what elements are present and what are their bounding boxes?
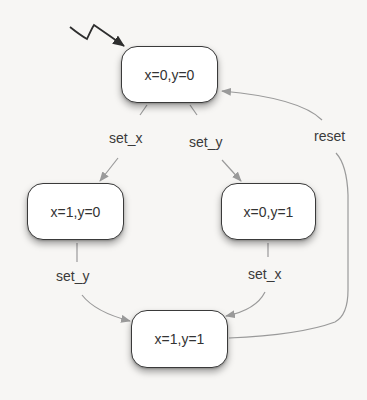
initial-state-arrow xyxy=(70,25,124,46)
edge-set-y-lower-bottom xyxy=(82,295,130,321)
state-label: x=1,y=0 xyxy=(51,204,101,220)
state-x1-y1: x=1,y=1 xyxy=(131,310,228,368)
edge-set-y-top xyxy=(190,105,197,115)
edge-label-reset: reset xyxy=(314,128,345,144)
state-label: x=0,y=0 xyxy=(145,67,195,83)
state-label: x=0,y=1 xyxy=(244,204,294,220)
edge-reset-lower xyxy=(229,153,348,338)
state-x1-y0: x=1,y=0 xyxy=(27,183,124,240)
edge-label-set-x-lower: set_x xyxy=(248,266,281,282)
state-label: x=1,y=1 xyxy=(155,331,205,347)
state-x0-y0: x=0,y=0 xyxy=(121,46,218,103)
edge-set-x-top xyxy=(140,105,147,115)
edge-set-x-bottom xyxy=(100,158,118,181)
edge-label-set-y-lower: set_y xyxy=(56,268,89,284)
state-diagram: x=0,y=0 x=1,y=0 x=0,y=1 x=1,y=1 set_x se… xyxy=(0,0,367,400)
edge-set-y-bottom xyxy=(222,160,241,181)
edge-reset-upper xyxy=(222,91,322,120)
state-x0-y1: x=0,y=1 xyxy=(221,183,316,240)
edge-label-set-x: set_x xyxy=(109,130,142,146)
edge-set-x-lower-bottom xyxy=(226,292,265,316)
edge-label-set-y: set_y xyxy=(189,134,222,150)
